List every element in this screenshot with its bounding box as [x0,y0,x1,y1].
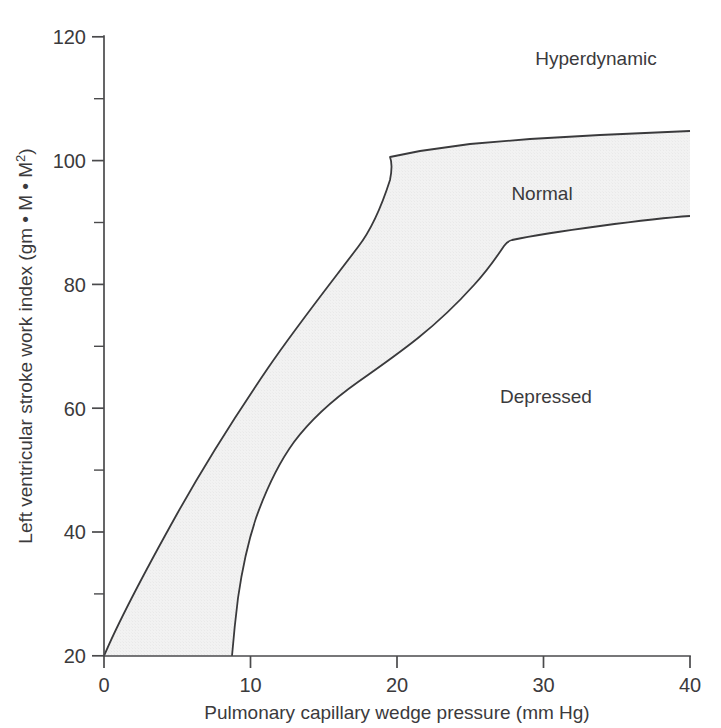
y-tick-label-80: 80 [64,274,86,296]
y-axis-tick-labels: 120 100 80 60 40 20 [53,26,86,667]
y-tick-label-120: 120 [53,26,86,48]
x-axis-tick-labels: 0 10 20 30 40 [98,674,701,696]
y-axis-title-close: ) [15,148,36,154]
y-axis-title: Left ventricular stroke work index (gm •… [13,148,36,543]
y-tick-label-40: 40 [64,521,86,543]
region-label-depressed: Depressed [500,386,592,407]
y-axis-title-main: Left ventricular stroke work index (gm •… [15,162,36,544]
region-label-normal: Normal [511,183,572,204]
x-tick-label-40: 40 [679,674,701,696]
chart-figure: 120 100 80 60 40 20 0 10 20 30 40 Pulmon… [0,0,721,728]
y-tick-label-60: 60 [64,398,86,420]
x-tick-label-10: 10 [239,674,261,696]
region-label-hyperdynamic: Hyperdynamic [535,48,656,69]
x-axis-major-ticks [104,656,544,668]
x-tick-label-0: 0 [98,674,109,696]
x-tick-label-20: 20 [386,674,408,696]
chart-canvas: 120 100 80 60 40 20 0 10 20 30 40 Pulmon… [0,0,721,728]
y-tick-label-100: 100 [53,150,86,172]
x-tick-label-30: 30 [532,674,554,696]
normal-band-area [104,131,690,656]
y-axis-minor-ticks [94,99,104,594]
svg-text:Left ventricular stroke work i: Left ventricular stroke work index (gm •… [13,148,36,543]
x-axis-title: Pulmonary capillary wedge pressure (mm H… [204,702,589,723]
y-axis-title-superscript: 2 [13,155,28,162]
y-tick-label-20: 20 [64,645,86,667]
